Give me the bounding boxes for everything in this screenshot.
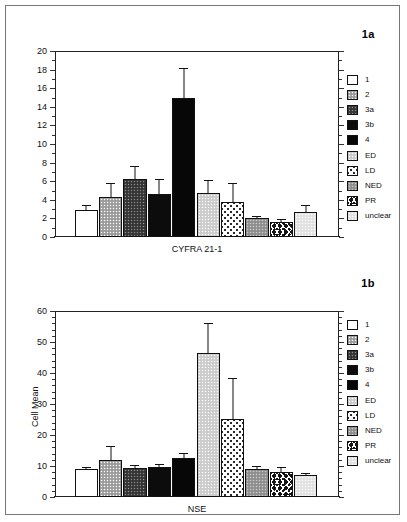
bar-item: [245, 51, 268, 237]
y-tick-minor: [339, 98, 342, 99]
bar-item: [123, 311, 146, 497]
legend-swatch: [347, 350, 358, 360]
error-bar-line: [110, 184, 111, 197]
error-bar-line: [159, 180, 160, 194]
legend-item: NED: [347, 178, 391, 193]
y-tick-label: 18: [37, 65, 47, 74]
error-bar-cap: [82, 467, 91, 468]
y-tick-minor: [339, 478, 342, 479]
legend-1b: 123a3b4EDLDNEDPRunclear: [347, 317, 391, 469]
y-tick-label: 40: [37, 369, 47, 378]
legend-label: 3a: [365, 351, 374, 359]
bar: [221, 202, 244, 237]
legend-item: unclear: [347, 454, 391, 469]
error-bar-line: [183, 454, 184, 458]
y-tick-minor: [339, 348, 342, 349]
y-tick-major: [339, 237, 344, 238]
legend-label: PR: [365, 442, 376, 450]
y-tick-minor: [339, 191, 342, 192]
bar-item: [294, 51, 317, 237]
legend-item: LD: [347, 408, 391, 423]
y-tick-label: 60: [37, 307, 47, 316]
y-tick-major: [339, 342, 344, 343]
legend-swatch: [347, 166, 358, 176]
error-bar-line: [134, 466, 135, 467]
y-tick-major: [339, 163, 344, 164]
error-bar-cap: [130, 465, 139, 466]
page-frame: 1a 02468101214161820 CYFRA 21-1 123a3b4E…: [5, 5, 400, 515]
error-bar-line: [159, 465, 160, 467]
bar: [270, 222, 293, 237]
error-bar-line: [305, 206, 306, 213]
error-bar-cap: [277, 219, 286, 220]
legend-label: 1: [365, 321, 369, 329]
error-bar-line: [305, 474, 306, 475]
legend-swatch: [347, 135, 358, 145]
legend-item: 3a: [347, 102, 391, 117]
figure-label-1b: 1b: [361, 277, 375, 289]
error-bar-cap: [155, 464, 164, 465]
legend-item: 1: [347, 72, 391, 87]
y-tick-minor: [339, 209, 342, 210]
legend-item: ED: [347, 148, 391, 163]
y-tick-minor: [339, 392, 342, 393]
error-bar-cap: [106, 183, 115, 184]
bar-item: [172, 51, 195, 237]
bar: [99, 460, 122, 497]
y-tick-label: 10: [37, 140, 47, 149]
y-tick-major: [339, 373, 344, 374]
y-tick-minor: [339, 79, 342, 80]
y-tick-minor: [339, 361, 342, 362]
y-tick-minor: [339, 317, 342, 318]
bar-item: [99, 51, 122, 237]
y-tick-label: 2: [42, 214, 47, 223]
legend-item: unclear: [347, 209, 391, 224]
y-tick-label: 20: [37, 431, 47, 440]
y-tick-minor: [339, 472, 342, 473]
y-tick-minor: [339, 385, 342, 386]
bar-item: [245, 311, 268, 497]
y-tick-minor: [339, 172, 342, 173]
y-tick-label: 8: [42, 158, 47, 167]
y-tick-minor: [339, 116, 342, 117]
y-tick-minor: [339, 60, 342, 61]
legend-item: 3b: [347, 118, 391, 133]
legend-1a: 123a3b4EDLDNEDPRunclear: [347, 72, 391, 224]
legend-label: NED: [365, 182, 382, 190]
legend-swatch: [347, 90, 358, 100]
y-tick-minor: [339, 447, 342, 448]
y-tick-label: 30: [37, 400, 47, 409]
legend-label: 4: [365, 381, 369, 389]
legend-item: 2: [347, 87, 391, 102]
legend-label: LD: [365, 412, 375, 420]
bar: [75, 469, 98, 497]
legend-label: 4: [365, 136, 369, 144]
bar: [245, 469, 268, 497]
legend-label: NED: [365, 427, 382, 435]
bar-item: [294, 311, 317, 497]
bar: [245, 218, 268, 237]
bar-item: [221, 51, 244, 237]
error-bar-line: [256, 217, 257, 219]
y-tick-minor: [339, 491, 342, 492]
legend-item: 4: [347, 133, 391, 148]
legend-swatch: [347, 75, 358, 85]
error-bar-cap: [179, 453, 188, 454]
y-tick-minor: [339, 416, 342, 417]
legend-swatch: [347, 105, 358, 115]
y-tick-major: [50, 497, 55, 498]
figure-label-1a: 1a: [362, 28, 375, 40]
bar: [294, 475, 317, 497]
plot-area-1a: 02468101214161820: [55, 51, 339, 237]
legend-item: NED: [347, 423, 391, 438]
legend-item: ED: [347, 393, 391, 408]
y-tick-label: 16: [37, 84, 47, 93]
y-tick-minor: [339, 135, 342, 136]
bar: [197, 193, 220, 237]
figure-1b: 1b Cell Mean 0102030405060 NSE 123a3b4ED…: [6, 267, 399, 522]
bar-item: [75, 51, 98, 237]
bar-item: [148, 51, 171, 237]
legend-swatch: [347, 365, 358, 375]
legend-item: 3a: [347, 347, 391, 362]
legend-item: 3b: [347, 363, 391, 378]
